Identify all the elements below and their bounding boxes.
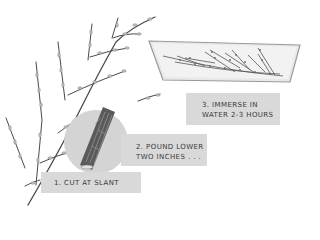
step-3-label: 3. IMMERSE IN WATER 2-3 HOURS bbox=[186, 93, 280, 125]
step-1-label: 1. CUT AT SLANT bbox=[41, 172, 141, 193]
step-2-line-1: 2. POUND LOWER bbox=[136, 142, 207, 152]
step-2-label: 2. POUND LOWER TWO INCHES . . . bbox=[121, 134, 207, 166]
pounded-stem-closeup bbox=[64, 107, 128, 174]
step-3-line-1: 3. IMMERSE IN bbox=[202, 100, 280, 110]
step-1-line-1: 1. CUT AT SLANT bbox=[54, 178, 141, 188]
step-2-line-2: TWO INCHES . . . bbox=[136, 152, 207, 162]
water-tray bbox=[149, 41, 300, 82]
step-3-line-2: WATER 2-3 HOURS bbox=[202, 110, 280, 120]
